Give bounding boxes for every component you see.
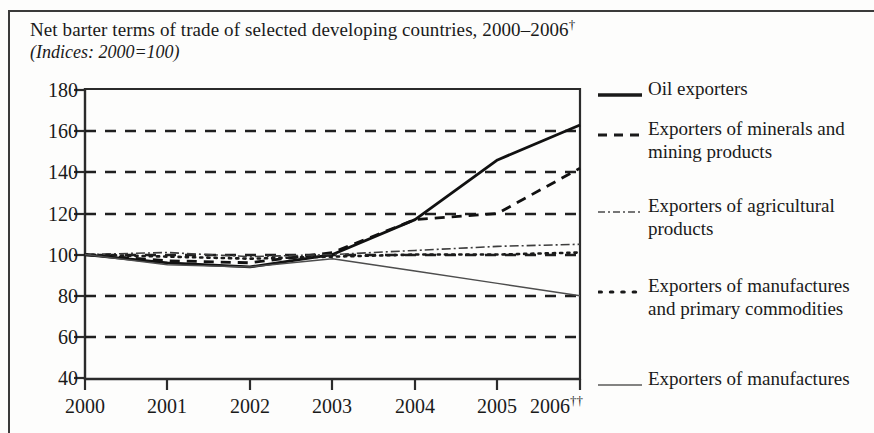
legend-sample-dotted-icon	[598, 285, 642, 299]
chart-legend: Oil exporters Exporters of minerals and …	[596, 70, 874, 430]
x-tick-label: 2002	[205, 396, 295, 416]
legend-sample-dashed-icon	[598, 128, 642, 142]
figure-container: Net barter terms of trade of selected de…	[0, 0, 874, 433]
x-tick-label: 2004	[370, 396, 460, 416]
legend-label: Oil exporters	[648, 77, 874, 100]
x-tick-label: 2003	[287, 396, 377, 416]
legend-sample-dashdot-icon	[598, 205, 642, 219]
legend-sample-solid-icon	[598, 88, 642, 102]
x-tick-label: 2005	[452, 396, 542, 416]
legend-label: Exporters of agricultural products	[648, 194, 874, 240]
x-tick-label: 2001	[122, 396, 212, 416]
legend-label: Exporters of manufactures	[648, 367, 874, 390]
legend-label: Exporters of manufactures and primary co…	[648, 274, 874, 320]
legend-label: Exporters of minerals and mining product…	[648, 117, 874, 163]
legend-sample-thin-solid-icon	[598, 378, 642, 392]
x-axis-double-dagger-marker: ††	[570, 393, 583, 408]
x-tick-label-last-year: 2006	[530, 395, 570, 417]
x-tick-label: 2000	[40, 396, 130, 416]
